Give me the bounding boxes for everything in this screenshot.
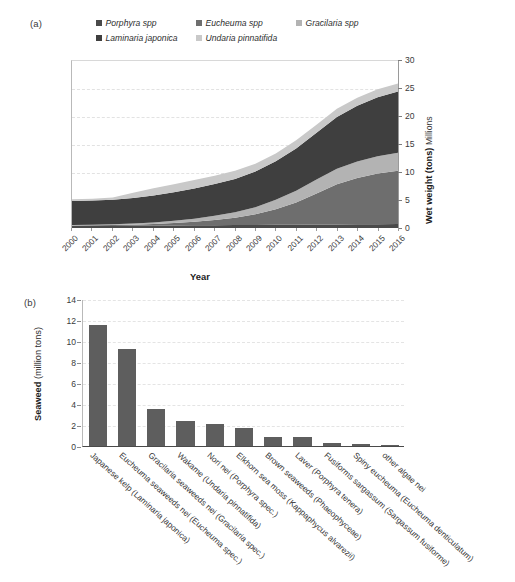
panel-b-y-tick: 4	[71, 400, 76, 410]
panel-b-y-tick-mark	[77, 384, 81, 385]
plot-area-panel-b	[82, 300, 404, 447]
panel-b-y-axis-title: Seaweed (million tons)	[30, 300, 46, 447]
bar	[118, 349, 136, 446]
panel-b-y-axis: 02468101214	[55, 300, 81, 447]
panel-a-y-tick: 30	[398, 55, 415, 65]
legend-panel-a: Porphyra spp Eucheuma spp Gracilaria spp…	[96, 15, 386, 45]
legend-row-1: Porphyra spp Eucheuma spp Gracilaria spp	[96, 15, 386, 30]
plot-area-panel-a	[71, 60, 398, 228]
bar	[176, 421, 194, 446]
legend-label-eucheuma-spp: Eucheuma spp	[206, 18, 263, 28]
legend-label-laminaria-japonica: Laminaria japonica	[106, 33, 178, 43]
panel-b-category-label: Spiny eucheuma (Eucheuma denticulatum)	[351, 450, 476, 564]
panel-a-y-axis-title: Wet weight (tons) Millions	[424, 116, 434, 224]
legend-item-eucheuma-spp: Eucheuma spp	[196, 18, 296, 28]
panel-b-y-tick-mark	[77, 405, 81, 406]
panel-b-y-tick-mark	[77, 300, 81, 301]
legend-item-laminaria-japonica: Laminaria japonica	[96, 33, 196, 43]
legend-row-2: Laminaria japonica Undaria pinnatifida	[96, 30, 386, 45]
panel-b-y-tick-mark	[77, 342, 81, 343]
legend-swatch-porphyra-spp	[96, 20, 102, 26]
bar-series	[83, 300, 404, 446]
bar	[206, 424, 224, 446]
figure-root: (a) Porphyra spp Eucheuma spp Gracilaria…	[0, 0, 515, 582]
panel-a-label: (a)	[30, 18, 42, 29]
legend-item-gracilaria-spp: Gracilaria spp	[296, 18, 359, 28]
panel-a-y-axis-title-bold: Wet weight (tons)	[424, 148, 434, 224]
legend-item-undaria-pinnatifida: Undaria pinnatifida	[196, 33, 277, 43]
bar	[352, 444, 370, 446]
bar	[89, 325, 107, 446]
panel-b-y-tick: 12	[66, 316, 76, 326]
panel-b-y-tick: 14	[66, 295, 76, 305]
panel-a-x-axis-title: Year	[0, 271, 400, 282]
legend-label-undaria-pinnatifida: Undaria pinnatifida	[206, 33, 278, 43]
panel-b-y-tick: 8	[71, 358, 76, 368]
panel-b-y-tick: 10	[66, 337, 76, 347]
panel-b-y-axis-title-bold: Seaweed	[33, 381, 43, 420]
panel-b-y-tick-mark	[77, 321, 81, 322]
bar	[264, 437, 282, 446]
legend-swatch-gracilaria-spp	[296, 20, 302, 26]
panel-a-area-chart: (a) Porphyra spp Eucheuma spp Gracilaria…	[0, 0, 515, 290]
bar	[381, 445, 399, 447]
legend-swatch-laminaria-japonica	[96, 35, 102, 41]
panel-b-y-tick-mark	[77, 426, 81, 427]
panel-a-y-tick: 20	[398, 111, 415, 121]
bar	[147, 409, 165, 446]
panel-a-y-tick: 10	[398, 167, 415, 177]
legend-swatch-eucheuma-spp	[196, 20, 202, 26]
panel-a-y-tick: 25	[398, 83, 415, 93]
legend-label-porphyra-spp: Porphyra spp	[106, 18, 157, 28]
stacked-area-series	[72, 61, 398, 228]
panel-b-bar-chart: (b) Seaweed (million tons) 02468101214 J…	[0, 288, 515, 582]
bar	[293, 437, 311, 446]
legend-swatch-undaria-pinnatifida	[196, 35, 202, 41]
panel-b-y-axis-title-units: (million tons)	[33, 327, 43, 379]
bar	[323, 443, 341, 446]
legend-item-porphyra-spp: Porphyra spp	[96, 18, 196, 28]
panel-a-y-tick: 5	[398, 195, 410, 205]
legend-label-gracilaria-spp: Gracilaria spp	[306, 18, 359, 28]
panel-b-y-tick-mark	[77, 363, 81, 364]
bar	[235, 428, 253, 446]
panel-a-y-axis-title-units: Millions	[424, 116, 434, 145]
panel-b-y-tick: 6	[71, 379, 76, 389]
panel-b-category-labels: Japanese kelp (Laminaria japonica)Eucheu…	[0, 448, 515, 582]
panel-b-y-tick: 2	[71, 421, 76, 431]
panel-a-y-tick: 15	[398, 139, 415, 149]
panel-a-x-labels: 2000200120022003200420052006200720082009…	[0, 228, 515, 270]
